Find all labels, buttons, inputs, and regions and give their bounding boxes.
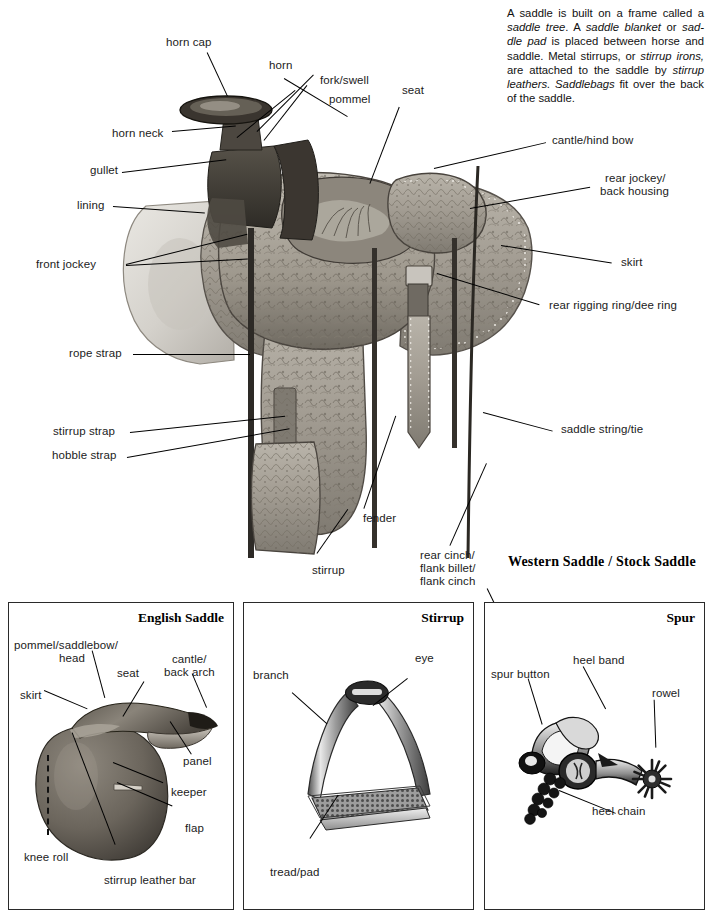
label-spur-heel-band: heel band xyxy=(573,654,624,668)
label-cantle-hind-bow: cantle/hind bow xyxy=(552,134,633,148)
label-spur-rowel: rowel xyxy=(652,687,680,701)
label-stirrup-strap: stirrup strap xyxy=(53,425,115,439)
western-saddle-caption: Western Saddle / Stock Saddle xyxy=(508,554,696,570)
english-saddle-photo xyxy=(30,690,220,870)
label-skirt: skirt xyxy=(621,256,643,270)
label-eng-seat: seat xyxy=(117,667,139,681)
label-rear-cinch-2: flank billet/ xyxy=(420,562,476,576)
label-eng-pommel-2: head xyxy=(59,652,85,666)
label-stirrup-tread-pad: tread/pad xyxy=(270,866,320,880)
label-stirrup-branch: branch xyxy=(253,669,289,683)
diagram-page: A saddle is built on a frame called a sa… xyxy=(0,0,711,918)
label-eng-keeper: keeper xyxy=(171,786,207,800)
label-front-jockey: front jockey xyxy=(36,258,96,272)
panel-title-stirrup: Stirrup xyxy=(421,610,464,626)
panel-title-english-saddle: English Saddle xyxy=(138,610,224,626)
label-pommel: pommel xyxy=(329,93,371,107)
label-eng-panel: panel xyxy=(183,755,212,769)
label-lining: lining xyxy=(77,199,104,213)
label-saddle-string: saddle string/tie xyxy=(561,423,643,437)
label-fork-swell: fork/swell xyxy=(320,74,369,88)
label-eng-skirt: skirt xyxy=(20,689,42,703)
label-rear-jockey-1: rear jockey/ xyxy=(605,172,666,186)
label-spur-button: spur button xyxy=(491,668,550,682)
label-eng-cantle-1: cantle/ xyxy=(172,653,207,667)
label-fender: fender xyxy=(363,512,396,526)
stirrup-photo xyxy=(290,668,450,868)
label-eng-stirrup-leather-bar: stirrup leather bar xyxy=(104,874,196,888)
label-rear-jockey-2: back housing xyxy=(600,185,669,199)
label-rear-cinch-1: rear cinch/ xyxy=(420,549,475,563)
label-rear-cinch-3: flank cinch xyxy=(420,575,475,589)
leader-line-rope-strap xyxy=(133,354,250,355)
knee-roll-dash xyxy=(47,755,49,835)
label-eng-pommel-1: pommel/saddlebow/ xyxy=(14,639,118,653)
label-seat: seat xyxy=(402,84,424,98)
label-eng-cantle-2: back arch xyxy=(164,666,215,680)
label-horn-neck: horn neck xyxy=(112,127,163,141)
label-hobble-strap: hobble strap xyxy=(52,449,117,463)
label-stirrup: stirrup xyxy=(312,564,345,578)
panel-title-spur: Spur xyxy=(666,610,695,626)
label-spur-heel-chain: heel chain xyxy=(592,805,645,819)
label-horn: horn xyxy=(269,59,292,73)
label-gullet: gullet xyxy=(90,164,118,178)
label-eng-knee-roll: knee roll xyxy=(24,851,68,865)
label-horn-cap: horn cap xyxy=(166,36,212,50)
label-rope-strap: rope strap xyxy=(69,347,122,361)
label-stirrup-eye: eye xyxy=(415,652,434,666)
label-rear-rigging-ring: rear rigging ring/dee ring xyxy=(549,299,677,313)
label-eng-flap: flap xyxy=(185,822,204,836)
